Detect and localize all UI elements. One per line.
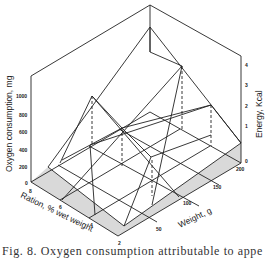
svg-text:1: 1 [245,123,248,129]
svg-text:600: 600 [19,129,28,135]
svg-text:3: 3 [245,82,248,88]
svg-text:150: 150 [213,184,222,190]
svg-text:4: 4 [245,62,248,68]
svg-text:800: 800 [19,112,28,118]
weight-axis-label: Weight, g [176,205,213,230]
right-axis-label: Energy, Kcal [254,90,264,138]
wireframe [31,5,241,236]
left-axis-label: Oxygen consumption, mg [4,75,14,172]
left-axis-ticks: 1000 800 600 400 200 0 [16,93,28,186]
figure-caption: Fig. 8. Oxygen consumption attributable … [2,244,272,258]
svg-text:0: 0 [25,180,28,186]
svg-text:0: 0 [245,158,248,164]
svg-text:1000: 1000 [16,93,27,99]
svg-text:400: 400 [19,147,28,153]
svg-text:2: 2 [245,103,248,109]
svg-text:200: 200 [19,164,28,170]
svg-text:100: 100 [183,200,192,206]
svg-text:200: 200 [236,166,245,172]
right-axis-ticks: 4 3 2 1 0 [245,62,248,164]
svg-text:50: 50 [156,226,162,232]
surface-plot: 1000 800 600 400 200 0 4 3 2 1 0 8 6 4 2… [0,0,272,258]
